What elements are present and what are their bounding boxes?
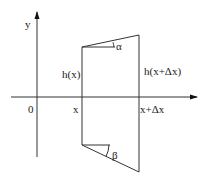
origin-label: 0 xyxy=(28,103,34,115)
alpha-arc xyxy=(113,42,114,47)
x-plus-dx-label: x+Δx xyxy=(140,103,165,115)
top-slant-edge xyxy=(82,35,139,47)
x-position-label: x xyxy=(73,103,79,115)
beta-arc xyxy=(106,145,109,157)
h-x-label: h(x) xyxy=(62,68,81,81)
y-axis-label: y xyxy=(25,18,31,30)
diagram-canvas: y 0 x x+Δx h(x) h(x+Δx) α β xyxy=(0,0,203,178)
bottom-slant-edge xyxy=(82,145,139,172)
h-x-plus-dx-label: h(x+Δx) xyxy=(144,65,181,78)
alpha-label: α xyxy=(116,40,122,52)
beta-label: β xyxy=(112,149,118,161)
